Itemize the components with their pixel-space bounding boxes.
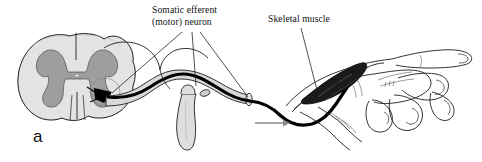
vertebral-process-neck <box>181 85 195 94</box>
label-skeletal-muscle-line1: Skeletal muscle <box>268 13 330 24</box>
panel-letter-a: a <box>33 127 43 146</box>
label-skeletal-muscle: Skeletal muscle <box>268 13 330 24</box>
label-somatic-efferent-neuron: Somatic efferent (motor) neuron <box>152 4 217 28</box>
spinal-cord-group <box>18 33 135 120</box>
anatomy-diagram-svg: Somatic efferent (motor) neuron Skeletal… <box>0 0 482 162</box>
label-somatic-efferent-line2: (motor) neuron <box>152 16 212 28</box>
vertebral-process-shape <box>177 94 196 150</box>
label-somatic-efferent-line1: Somatic efferent <box>152 4 217 15</box>
central-canal <box>75 74 79 77</box>
anatomy-figure-panel: Somatic efferent (motor) neuron Skeletal… <box>0 0 482 162</box>
